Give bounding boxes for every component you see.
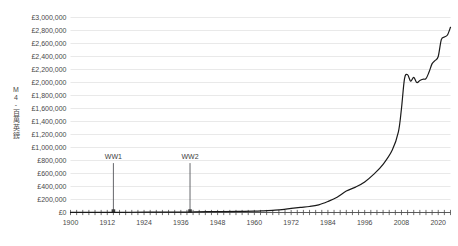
x-tick-label: 1984: [308, 219, 348, 226]
y-tick-label: £1,800,000: [31, 92, 66, 99]
y-tick-label: £400,000: [37, 183, 66, 190]
y-axis-title: M4-百萬英鎊: [9, 86, 23, 139]
x-tick-label: 1924: [124, 219, 164, 226]
y-tick-label: £0: [59, 209, 67, 216]
y-axis-title-char: 英: [9, 124, 23, 132]
y-tick-label: £800,000: [37, 157, 66, 164]
x-tick-label: 1996: [345, 219, 385, 226]
y-axis-title-char: M: [9, 86, 23, 94]
y-tick-label: £2,400,000: [31, 53, 66, 60]
gridlines: [71, 18, 451, 200]
x-tick-label: 2020: [418, 219, 458, 226]
y-tick-label: £1,000,000: [31, 144, 66, 151]
y-tick-label: £1,400,000: [31, 118, 66, 125]
y-tick-label: £3,000,000: [31, 14, 66, 21]
x-tick-label: 1960: [234, 219, 274, 226]
m4-money-supply-chart: M4-百萬英鎊 £0£200,000£400,000£600,000£800,0…: [0, 0, 458, 246]
annotation-label: WW1: [93, 153, 133, 160]
annotation-label: WW2: [170, 153, 210, 160]
y-axis-title-char: -: [9, 101, 23, 109]
x-tick-label: 1972: [271, 219, 311, 226]
y-tick-label: £1,600,000: [31, 105, 66, 112]
annotation-markers: [112, 163, 192, 213]
x-tick-label: 1900: [51, 219, 91, 226]
y-axis-title-char: 鎊: [9, 132, 23, 140]
y-tick-label: £2,200,000: [31, 66, 66, 73]
y-axis-title-char: 萬: [9, 116, 23, 124]
y-tick-label: £1,200,000: [31, 131, 66, 138]
y-tick-label: £600,000: [37, 170, 66, 177]
x-tick-label: 1936: [161, 219, 201, 226]
m4-series-line: [71, 27, 451, 212]
x-tick-label: 1948: [198, 219, 238, 226]
chart-canvas: [0, 0, 458, 246]
y-tick-label: £2,000,000: [31, 79, 66, 86]
x-tick-label: 1912: [87, 219, 127, 226]
y-axis-title-char: 4: [9, 94, 23, 102]
y-tick-label: £2,600,000: [31, 40, 66, 47]
x-tick-label: 2008: [381, 219, 421, 226]
y-tick-label: £200,000: [37, 196, 66, 203]
y-tick-label: £2,800,000: [31, 27, 66, 34]
